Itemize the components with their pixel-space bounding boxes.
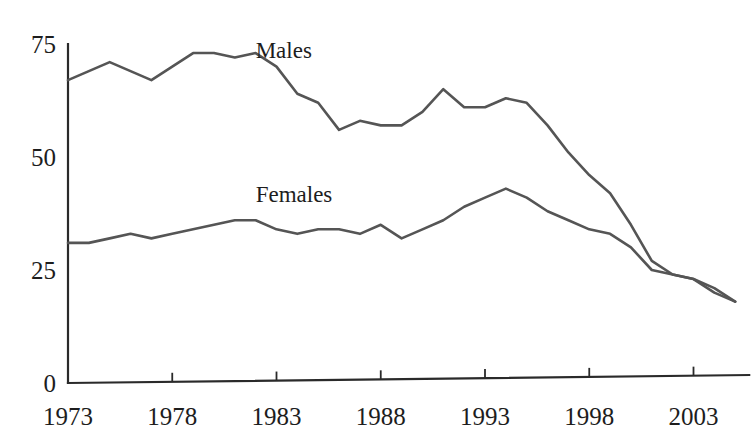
y-axis-tick-label: 50 <box>31 144 56 171</box>
x-axis-tick-labels: 1973197819831988199319982003 <box>43 403 719 430</box>
x-axis-tick-label: 1978 <box>147 403 197 430</box>
data-series-group <box>68 53 735 302</box>
x-axis-tick-label: 1998 <box>564 403 614 430</box>
x-axis-tick-label: 1993 <box>460 403 510 430</box>
x-axis-line <box>68 375 749 383</box>
chart-container: 0255075 1973197819831988199319982003 Mal… <box>0 0 751 444</box>
series-label-females: Females <box>256 182 333 207</box>
x-axis-tick-label: 2003 <box>669 403 719 430</box>
x-axis-tick-label: 1988 <box>356 403 406 430</box>
series-line-males <box>68 53 735 302</box>
series-label-males: Males <box>256 38 312 63</box>
x-axis-tick-label: 1983 <box>252 403 302 430</box>
series-line-females <box>68 189 735 302</box>
y-axis-tick-label: 0 <box>44 370 57 397</box>
series-annotation-labels: MalesFemales <box>256 38 333 208</box>
x-axis-tick-label: 1973 <box>43 403 93 430</box>
y-axis-tick-label: 25 <box>31 257 56 284</box>
y-axis-tick-labels: 0255075 <box>31 31 56 397</box>
line-chart: 0255075 1973197819831988199319982003 Mal… <box>0 0 751 444</box>
y-axis-tick-label: 75 <box>31 31 56 58</box>
x-axis <box>68 367 749 383</box>
